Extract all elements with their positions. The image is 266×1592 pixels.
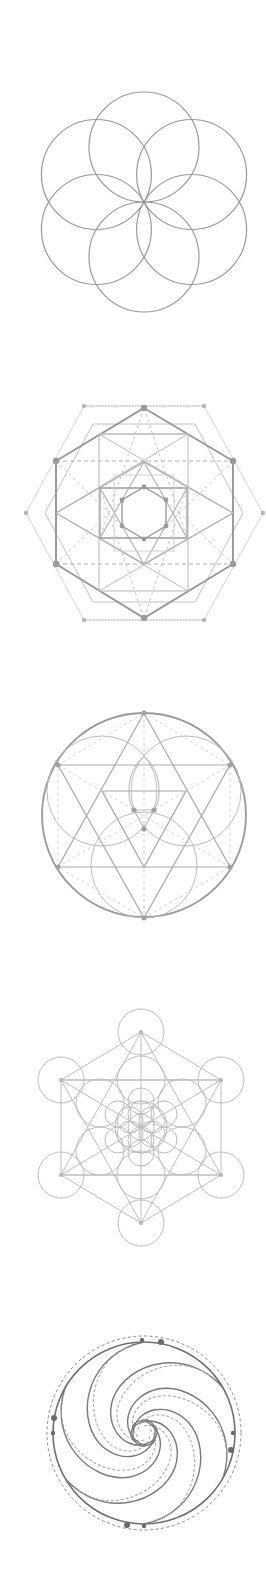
spiral-vortex-figure bbox=[0, 0, 266, 1592]
spiral-dots bbox=[51, 1338, 235, 1528]
dashed-outer-circle bbox=[47, 1336, 241, 1530]
solid-circle bbox=[53, 1342, 235, 1524]
